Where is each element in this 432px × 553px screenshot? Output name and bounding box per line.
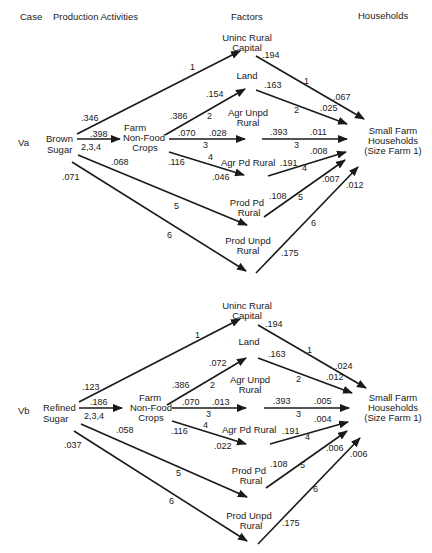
panel-vb: Vb Refined Sugar Farm Non-Food Crops Uni… [18, 300, 422, 544]
coef: .006 [350, 449, 368, 459]
path-num: 2,3,4 [84, 411, 104, 421]
path-num: 2 [296, 374, 301, 384]
coef: .028 [209, 128, 227, 138]
farm-node-line3: Crops [132, 142, 158, 153]
path-diagram: Case Production Activities Factors House… [0, 0, 432, 553]
source-node-line2: Sugar [43, 413, 68, 424]
coef: .398 [90, 129, 108, 139]
coef: .068 [111, 157, 129, 167]
header-production-activities: Production Activities [53, 11, 138, 22]
path-num: 5 [174, 201, 179, 211]
coef: .022 [214, 441, 232, 451]
coef: .011 [310, 127, 327, 137]
household-line3: (Size Farm 1) [364, 412, 422, 423]
coef: .108 [269, 191, 287, 201]
coef: .154 [206, 89, 224, 99]
path-num: 1 [190, 62, 195, 72]
factor-agr-pd: Agr Pd Rural [222, 424, 276, 435]
coef: .037 [64, 440, 82, 450]
factor-prod-unpd-line2: Rural [240, 520, 263, 531]
path-num: 6 [169, 496, 174, 506]
coef: .393 [273, 396, 291, 406]
coef: .346 [81, 113, 99, 123]
factor-uninc-line2: Capital [232, 310, 262, 321]
coef: .191 [280, 158, 298, 168]
path-num: 3 [203, 140, 208, 150]
coef: .004 [314, 414, 332, 424]
path-num: 1 [195, 330, 200, 340]
coef: .116 [171, 426, 188, 436]
case-label: Va [18, 137, 30, 148]
coef: .006 [326, 443, 344, 453]
factor-agr-unpd-line2: Rural [237, 117, 260, 128]
case-label: Vb [18, 405, 30, 416]
coef: .070 [182, 397, 200, 407]
path-num: 2,3,4 [81, 142, 101, 152]
coef: .012 [346, 180, 364, 190]
coef: .007 [322, 174, 340, 184]
path-num: 2 [294, 105, 299, 115]
source-node-line1: Brown [46, 133, 73, 144]
path-num: 5 [298, 192, 303, 202]
path-num: 3 [206, 409, 211, 419]
coef: .194 [265, 319, 283, 329]
factor-prod-pd-line2: Rural [240, 475, 263, 486]
path-num: 1 [304, 76, 309, 86]
path-num: 5 [176, 468, 181, 478]
factor-agr-pd: Agr Pd Rural [221, 157, 275, 168]
factor-agr-unpd-line2: Rural [239, 384, 262, 395]
coef: .072 [209, 358, 227, 368]
path-num: 4 [302, 163, 307, 173]
header-factors: Factors [231, 11, 263, 22]
edge-produnpd-hh [256, 167, 358, 273]
coef: .046 [212, 172, 230, 182]
header-households: Households [358, 10, 408, 21]
path-num: 3 [294, 140, 299, 150]
header-case: Case [20, 11, 42, 22]
factor-prod-unpd-line2: Rural [237, 245, 260, 256]
coef: .123 [82, 382, 100, 392]
household-line3: (Size Farm 1) [364, 145, 422, 156]
coef: .175 [281, 248, 299, 258]
coef: .116 [168, 157, 185, 167]
coef: .163 [268, 349, 286, 359]
coef: .071 [62, 172, 80, 182]
path-num: 2 [210, 380, 215, 390]
path-num: 1 [307, 345, 312, 355]
path-num: 6 [311, 218, 316, 228]
coef: .108 [270, 459, 288, 469]
coef: .386 [170, 111, 188, 121]
coef: .186 [90, 397, 108, 407]
coef: .163 [264, 80, 282, 90]
edge-produnpd-hh [258, 438, 360, 544]
path-num: 2 [207, 111, 212, 121]
factor-land: Land [238, 336, 259, 347]
coef: .008 [310, 146, 328, 156]
coef: .191 [282, 426, 300, 436]
path-num: 6 [313, 484, 318, 494]
coef: .024 [335, 361, 353, 371]
farm-node-line3: Crops [138, 412, 164, 423]
path-num: 4 [208, 152, 213, 162]
coef: .013 [212, 397, 230, 407]
coef: .393 [270, 127, 288, 137]
coef: .012 [326, 372, 344, 382]
path-num: 4 [305, 432, 310, 442]
source-node-line2: Sugar [47, 144, 72, 155]
coef: .386 [172, 380, 190, 390]
source-node-line1: Refined [43, 402, 76, 413]
path-num: 3 [296, 409, 301, 419]
coef: .058 [116, 425, 134, 435]
path-num: 6 [167, 230, 172, 240]
column-headers: Case Production Activities Factors House… [20, 10, 408, 22]
panel-va: Va Brown Sugar Farm Non-Food Crops Uninc… [18, 32, 422, 273]
coef: .070 [178, 128, 196, 138]
path-num: 4 [203, 420, 208, 430]
coef: .175 [282, 518, 300, 528]
factor-uninc-line2: Capital [232, 42, 262, 53]
coef: .025 [320, 103, 338, 113]
factor-prod-pd-line2: Rural [238, 207, 261, 218]
factor-land: Land [236, 70, 257, 81]
coef: .067 [333, 92, 351, 102]
coef: .005 [314, 396, 332, 406]
